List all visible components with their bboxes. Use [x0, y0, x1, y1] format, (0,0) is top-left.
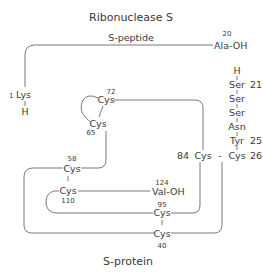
cys-40-residue: Cys	[153, 228, 170, 239]
residue-number-110: 110	[61, 197, 74, 205]
residue-number-84: 84	[177, 150, 189, 161]
residue-number-26: 26	[250, 150, 262, 161]
cys-65-residue: Cys	[89, 118, 106, 129]
cys-26-residue: Cys	[228, 150, 245, 161]
ala-oh-c-terminus: Ala-OH	[214, 40, 247, 51]
ser-22-residue: Ser	[229, 93, 245, 104]
s-protein-label: S-protein	[103, 255, 153, 268]
disulfide-26-84: 84 Cys - Cys 26	[177, 150, 262, 161]
disulfide-dash: -	[218, 150, 221, 161]
disulfide-65-72: 72 Cys Cys 65	[81, 88, 115, 137]
cys-84-residue: Cys	[194, 150, 211, 161]
cys-58-group: 58 Cys	[63, 155, 80, 174]
lys-n-terminal-h: H	[21, 106, 28, 117]
cys-110-residue: Cys	[59, 185, 76, 196]
backbone-26-40	[171, 162, 222, 233]
backbone-40-58	[24, 168, 155, 233]
ribonuclease-s-diagram: Ribonuclease S S-peptide 20 Ala-OH 1 Lys…	[0, 0, 263, 272]
cys-110-group: Cys 110	[59, 185, 76, 205]
residue-number-21: 21	[250, 79, 262, 90]
residue-number-20: 20	[223, 30, 232, 38]
residue-number-1: 1	[9, 92, 13, 100]
cys-95-group: 95 Cys	[153, 201, 170, 218]
lys-1-residue: Lys	[16, 89, 31, 100]
val-oh-c-terminus: Val-OH	[152, 186, 185, 197]
residue-number-58: 58	[68, 155, 77, 163]
diagram-title: Ribonuclease S	[89, 11, 173, 24]
cys-40-group: Cys 40	[153, 228, 170, 250]
s-protein-n-terminal-chain: H Ser 21 Ser Ser Asn Tyr 25	[228, 65, 262, 150]
backbone-72-84	[114, 100, 203, 150]
cys-72-residue: Cys	[97, 94, 114, 105]
s-peptide-chain: S-peptide 20 Ala-OH 1 Lys H	[9, 30, 247, 117]
residue-number-65: 65	[87, 129, 96, 137]
asn-24-residue: Asn	[228, 121, 245, 132]
cys-58-residue: Cys	[63, 163, 80, 174]
tyr-25-residue: Tyr	[229, 135, 244, 146]
ser-21-residue: Ser	[229, 79, 245, 90]
residue-number-40: 40	[158, 242, 167, 250]
s-peptide-backbone	[25, 45, 213, 87]
cys-95-residue: Cys	[153, 207, 170, 218]
ser-23-residue: Ser	[229, 107, 245, 118]
residue-number-25: 25	[250, 135, 262, 146]
n-terminal-h: H	[233, 65, 240, 76]
disulfide-65-72-bond	[99, 106, 103, 117]
s-peptide-label: S-peptide	[108, 32, 154, 43]
